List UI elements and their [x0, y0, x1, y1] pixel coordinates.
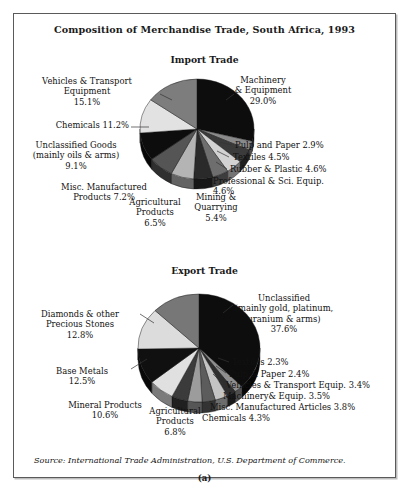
export-label-diamonds: Diamonds & other Precious Stones 12.8% — [24, 309, 136, 340]
export-label-base-metals: Base Metals 12.5% — [38, 366, 126, 387]
export-label-agricultural: Agricultural Products 6.8% — [140, 406, 210, 437]
export-label-misc: Misc. Manufactured Articles 3.8% — [210, 402, 355, 412]
figure-frame: Composition of Merchandise Trade, South … — [13, 13, 396, 478]
source-note: Source: International Trade Administrati… — [34, 455, 346, 465]
panel-letter: (a) — [14, 473, 395, 483]
export-label-pulp: Pulp & Paper 2.4% — [229, 369, 309, 379]
export-label-unclassified: Unclassified (mainly gold, platinum, ura… — [219, 293, 349, 335]
export-label-vehicles: Vehicles & Transport Equip. 3.4% — [226, 380, 370, 390]
export-label-textiles: Textiles 2.3% — [232, 357, 289, 367]
export-label-machinery: Machinery& Equip. 3.5% — [223, 391, 330, 401]
export-label-chemicals: Chemicals 4.3% — [202, 413, 270, 423]
